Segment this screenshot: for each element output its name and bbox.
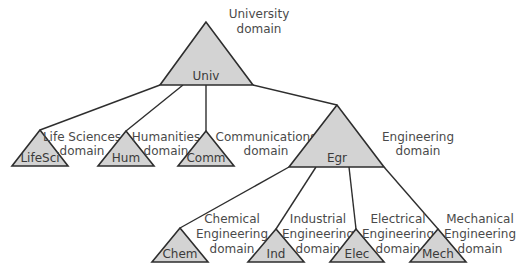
comm-domain-line1: Communications: [216, 130, 317, 144]
mech-domain-line1: Mechanical: [446, 212, 514, 226]
ind-label: Ind: [267, 247, 286, 261]
egr-domain-line1: Engineering: [382, 130, 454, 144]
comm-domain-line2: domain: [244, 144, 289, 158]
egr-domain-line2: domain: [396, 144, 441, 158]
edge-univ-lifesci: [40, 85, 160, 130]
hum-label: Hum: [112, 151, 140, 165]
elec-label: Elec: [345, 247, 370, 261]
ind-domain-line1: Industrial: [290, 212, 346, 226]
domain-tree-diagram: Univ University domain LifeSci Life Scie…: [0, 0, 516, 274]
diagram-svg: Univ University domain LifeSci Life Scie…: [0, 0, 516, 274]
ind-domain-line2: Engineering: [282, 227, 354, 241]
elec-domain-line1: Electrical: [370, 212, 425, 226]
node-univ: Univ University domain: [160, 7, 289, 85]
edge-univ-egr: [253, 85, 337, 105]
univ-label: Univ: [193, 69, 220, 83]
edge-egr-elec: [349, 167, 356, 229]
node-egr: Egr Engineering domain: [289, 105, 454, 167]
comm-label: Comm: [186, 151, 225, 165]
elec-domain-line2: Engineering: [362, 227, 434, 241]
mech-domain-line2: Engineering: [444, 227, 516, 241]
mech-label: Mech: [422, 247, 454, 261]
chem-domain-line2: Engineering: [196, 227, 268, 241]
lifesci-domain-line1: Life Sciences: [43, 130, 121, 144]
ind-domain-line3: domain: [296, 242, 341, 256]
lifesci-label: LifeSci: [20, 151, 59, 165]
univ-domain-line1: University: [229, 7, 290, 21]
elec-domain-line3: domain: [376, 242, 421, 256]
node-chem: Chem Chemical Engineering domain: [152, 212, 268, 262]
chem-domain-line1: Chemical: [204, 212, 260, 226]
mech-domain-line3: domain: [458, 242, 503, 256]
hum-domain-line2: domain: [144, 144, 189, 158]
lifesci-domain-line2: domain: [60, 144, 105, 158]
chem-label: Chem: [162, 247, 197, 261]
egr-label: Egr: [327, 151, 347, 165]
univ-domain-line2: domain: [237, 22, 282, 36]
edge-univ-hum: [126, 85, 183, 131]
hum-domain-line1: Humanities: [132, 130, 200, 144]
chem-domain-line3: domain: [210, 242, 255, 256]
